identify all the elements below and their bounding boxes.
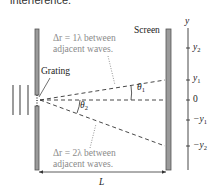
annotation-top-leader — [108, 56, 115, 85]
annotation-bottom-leader — [90, 124, 96, 148]
tick-label-zero: 0 — [193, 95, 198, 105]
grating-leader-line — [39, 78, 50, 97]
tick-label-y1: y1 — [193, 74, 200, 85]
diffraction-grating-diagram: interference. — [0, 0, 219, 196]
tick-label-neg-y1: −y1 — [193, 115, 207, 126]
tick-neg-y2-subscript: 2 — [204, 144, 207, 151]
grating-label: Grating — [41, 67, 70, 77]
screen-bar — [166, 29, 171, 170]
annotation-bottom-line1: Δr = 2λ between — [53, 149, 116, 159]
tick-y1-subscript: 1 — [197, 77, 200, 84]
incident-wavefronts — [13, 85, 28, 115]
y-axis-label: y — [185, 17, 189, 27]
annotation-top-line1: Δr = 1λ between — [53, 34, 116, 44]
distance-label: L — [99, 178, 104, 188]
theta2-label: θ2 — [80, 101, 88, 112]
tick-label-neg-y2: −y2 — [193, 141, 207, 152]
screen-label: Screen — [134, 26, 160, 36]
theta1-label: θ1 — [137, 83, 145, 94]
y-axis — [186, 28, 190, 170]
rays — [40, 80, 165, 146]
tick-label-y2: y2 — [193, 43, 200, 54]
theta2-subscript: 2 — [85, 104, 88, 111]
tick-neg-y2-symbol: −y — [193, 140, 204, 150]
tick-y2-subscript: 2 — [197, 46, 200, 53]
tick-neg-y1-subscript: 1 — [204, 118, 207, 125]
theta1-subscript: 1 — [142, 86, 145, 93]
tick-zero-symbol: 0 — [193, 94, 198, 104]
annotation-bottom-line2: adjacent waves. — [53, 160, 113, 170]
annotation-top-line2: adjacent waves. — [53, 45, 113, 55]
theta1-arc — [131, 86, 132, 100]
grating-lower-bar — [35, 106, 39, 170]
grating-upper-bar — [35, 29, 39, 95]
tick-neg-y1-symbol: −y — [193, 114, 204, 124]
distance-arrow — [39, 170, 166, 174]
